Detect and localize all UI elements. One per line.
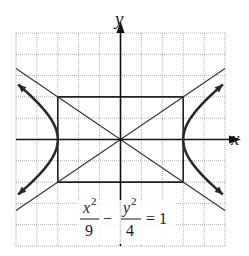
eq-term2-exp: 2 [131, 195, 137, 207]
eq-term1-denominator: 9 [85, 222, 93, 239]
eq-term1-numerator: x [82, 199, 90, 216]
eq-term1-exp: 2 [91, 195, 97, 207]
eq-rhs: = 1 [146, 210, 167, 227]
hyperbola-graph: y x x 2 9 − y 2 4 = 1 [0, 0, 249, 256]
y-axis-label: y [113, 8, 124, 29]
eq-operator: − [103, 210, 112, 227]
eq-term2-denominator: 4 [126, 222, 134, 239]
x-axis-label: x [230, 128, 240, 149]
equation-label: x 2 9 − y 2 4 = 1 [78, 195, 176, 244]
eq-term2-numerator: y [121, 199, 131, 217]
